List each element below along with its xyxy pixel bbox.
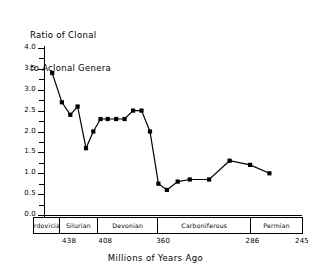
y-tick-label: 2.5 — [8, 106, 36, 116]
y-tick-label: 2.0 — [8, 127, 36, 137]
period-box-carboniferous: Carboniferous — [158, 218, 251, 233]
x-axis-title: Millions of Years Ago — [0, 253, 311, 263]
data-point-marker — [267, 171, 271, 175]
data-point-marker — [106, 117, 110, 121]
y-tick-label: 4.0 — [8, 43, 36, 53]
data-point-marker — [207, 177, 211, 181]
data-point-marker — [165, 188, 169, 192]
data-point-marker — [188, 177, 192, 181]
data-point-marker — [123, 117, 127, 121]
y-tick-major — [38, 215, 45, 216]
y-tick-label: 3.5 — [8, 64, 36, 74]
y-tick-label-text: 3.0 — [14, 85, 36, 93]
x-tick-label: 360 — [156, 237, 170, 245]
y-tick-major — [38, 69, 45, 70]
data-point-marker — [176, 180, 180, 184]
data-point-marker — [76, 104, 80, 108]
y-tick-major — [38, 173, 45, 174]
x-tick-label: 438 — [62, 237, 76, 245]
data-point-marker — [248, 163, 252, 167]
y-tick-major — [38, 90, 45, 91]
data-point-marker — [148, 129, 152, 133]
chart-figure: Ratio of Clonal to Aclonal Genera 0.00.5… — [0, 0, 311, 271]
data-point-marker — [139, 109, 143, 113]
data-point-marker — [156, 182, 160, 186]
y-tick-major — [38, 132, 45, 133]
y-tick-minor — [39, 163, 45, 164]
y-tick-label: 1.5 — [8, 147, 36, 157]
chart-title: Ratio of Clonal to Aclonal Genera — [30, 8, 111, 96]
y-tick-label-text: 4.0 — [14, 43, 36, 51]
data-point-marker — [228, 159, 232, 163]
y-tick-major — [38, 194, 45, 195]
y-tick-minor — [39, 58, 45, 59]
y-tick-major — [38, 152, 45, 153]
data-point-marker — [114, 117, 118, 121]
y-tick-minor — [39, 142, 45, 143]
y-tick-minor — [39, 121, 45, 122]
y-tick-label-text: 2.5 — [14, 106, 36, 114]
data-point-marker — [98, 117, 102, 121]
y-tick-label: 3.0 — [8, 85, 36, 95]
y-tick-label: 1.0 — [8, 168, 36, 178]
period-box-permian: Permian — [251, 218, 302, 233]
y-tick-major — [38, 111, 45, 112]
y-tick-label-text: 2.0 — [14, 127, 36, 135]
x-tick-label: 245 — [295, 237, 309, 245]
y-tick-label: 0.0 — [8, 210, 36, 220]
y-tick-minor — [39, 205, 45, 206]
x-tick-label: 408 — [98, 237, 112, 245]
data-point-marker — [84, 146, 88, 150]
y-tick-label-text: 1.5 — [14, 147, 36, 155]
y-tick-minor — [39, 79, 45, 80]
geologic-period-axis: OrdovicianSilurianDevonianCarboniferousP… — [33, 217, 303, 234]
y-tick-minor — [39, 184, 45, 185]
y-tick-minor — [39, 100, 45, 101]
x-tick-label: 286 — [246, 237, 260, 245]
y-tick-label-text: 3.5 — [14, 64, 36, 72]
chart-title-line-1: Ratio of Clonal — [30, 30, 111, 41]
y-tick-label-text: 1.0 — [14, 168, 36, 176]
data-point-marker — [91, 129, 95, 133]
y-tick-label: 0.5 — [8, 189, 36, 199]
data-point-marker — [131, 109, 135, 113]
period-box-devonian: Devonian — [98, 218, 159, 233]
data-point-marker — [60, 100, 64, 104]
period-box-ordovician: Ordovician — [34, 218, 60, 233]
x-axis-line — [44, 215, 302, 216]
y-tick-major — [38, 48, 45, 49]
y-tick-label-text: 0.5 — [14, 189, 36, 197]
period-box-silurian: Silurian — [60, 218, 98, 233]
data-point-marker — [68, 113, 72, 117]
